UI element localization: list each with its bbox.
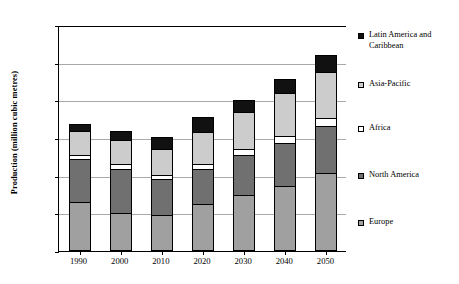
bar-stack[interactable] — [233, 100, 255, 251]
x-tick-label: 2020 — [179, 256, 225, 266]
bar-segment[interactable] — [151, 215, 173, 251]
legend-label: North America — [369, 170, 419, 181]
bar-segment[interactable] — [315, 55, 337, 72]
bar-segment[interactable] — [192, 204, 214, 251]
bar-stack[interactable] — [69, 124, 91, 251]
x-tick-label: 1990 — [56, 256, 102, 266]
plot-area — [58, 26, 346, 252]
bar-segment[interactable] — [192, 132, 214, 164]
bar-segment[interactable] — [315, 173, 337, 251]
bar-segment[interactable] — [274, 93, 296, 136]
x-tick-mark — [285, 251, 286, 255]
legend-item[interactable]: Europe — [358, 217, 458, 228]
bar-segment[interactable] — [233, 100, 255, 113]
x-tick-mark — [244, 251, 245, 255]
x-tick-mark — [162, 251, 163, 255]
legend-swatch-icon — [358, 220, 364, 226]
bar-segment[interactable] — [110, 169, 132, 213]
x-tick-label: 2050 — [302, 256, 348, 266]
bar-segment[interactable] — [274, 143, 296, 187]
legend-swatch-icon — [358, 126, 364, 132]
x-tick-label: 2040 — [261, 256, 307, 266]
legend-swatch-icon — [358, 33, 364, 39]
y-axis-title: Production (million cubic metres) — [10, 33, 19, 233]
legend-label: Africa — [369, 123, 390, 134]
stacked-bar-chart: Production (million cubic metres) 05001,… — [0, 0, 459, 284]
bar-stack[interactable] — [315, 55, 337, 251]
x-tick-label: 2010 — [138, 256, 184, 266]
bar-segment[interactable] — [274, 136, 296, 143]
legend-label: Europe — [369, 217, 393, 228]
bar-segment[interactable] — [233, 155, 255, 195]
bar-group — [59, 26, 346, 251]
bar-segment[interactable] — [274, 186, 296, 251]
legend-swatch-icon — [358, 82, 364, 88]
x-tick-mark — [326, 251, 327, 255]
bar-segment[interactable] — [192, 169, 214, 204]
bar-stack[interactable] — [110, 131, 132, 252]
x-tick-mark — [121, 251, 122, 255]
bar-segment[interactable] — [192, 117, 214, 132]
bar-segment[interactable] — [233, 195, 255, 251]
bar-segment[interactable] — [151, 179, 173, 214]
legend-item[interactable]: North America — [358, 170, 458, 181]
bar-segment[interactable] — [233, 112, 255, 149]
bar-segment[interactable] — [151, 149, 173, 175]
legend-item[interactable]: Latin America and Caribbean — [358, 30, 458, 51]
x-tick-label: 2030 — [220, 256, 266, 266]
bar-segment[interactable] — [69, 202, 91, 251]
legend-label: Latin America and Caribbean — [369, 30, 431, 51]
bar-segment[interactable] — [274, 79, 296, 93]
bar-segment[interactable] — [69, 124, 91, 131]
x-tick-mark — [203, 251, 204, 255]
x-tick-label: 2000 — [97, 256, 143, 266]
bar-stack[interactable] — [274, 79, 296, 251]
legend-swatch-icon — [358, 173, 364, 179]
bar-segment[interactable] — [69, 159, 91, 202]
y-tick-mark — [55, 252, 59, 253]
bar-segment[interactable] — [315, 118, 337, 126]
bar-segment[interactable] — [110, 131, 132, 140]
bar-stack[interactable] — [192, 117, 214, 251]
bar-segment[interactable] — [315, 126, 337, 173]
bar-segment[interactable] — [69, 131, 91, 155]
bar-segment[interactable] — [110, 213, 132, 251]
bar-stack[interactable] — [151, 137, 173, 251]
bar-segment[interactable] — [110, 140, 132, 165]
legend-item[interactable]: Africa — [358, 123, 458, 134]
x-tick-mark — [80, 251, 81, 255]
bar-segment[interactable] — [315, 72, 337, 119]
legend-item[interactable]: Asia-Pacific — [358, 79, 458, 90]
bar-segment[interactable] — [151, 137, 173, 150]
legend-label: Asia-Pacific — [369, 79, 410, 90]
